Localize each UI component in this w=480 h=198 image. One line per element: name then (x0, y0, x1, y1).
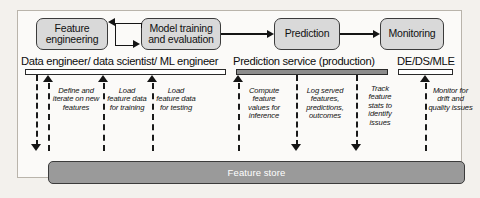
role-bar-data-team (25, 69, 226, 75)
annotation-log-served: Log served features, predictions, outcom… (300, 87, 350, 121)
role-label-text: DE/DS/MLE (397, 55, 455, 67)
annotation-define-iterate: Define and iterate on new features (52, 87, 100, 112)
role-label-data-team: Data engineer/ data scientist/ ML engine… (21, 55, 218, 67)
dashed-arrow-monitor-drift (420, 75, 430, 82)
dashed-line-define-iterate-up (48, 83, 50, 151)
loop-top-line (115, 23, 141, 25)
role-bar-prediction-service (236, 69, 388, 75)
dashed-line-monitor-drift (425, 83, 427, 151)
role-label-de-ds-mle: DE/DS/MLE (397, 55, 455, 67)
role-label-prediction-service: Prediction service (production) (233, 55, 375, 67)
connector-prediction-to-monitoring-arrowhead (373, 30, 380, 38)
dashed-arrow-define-iterate-down (31, 144, 41, 151)
flow-box-label: Model training and evaluation (144, 23, 218, 46)
flow-box-label: Monitoring (388, 28, 435, 40)
feature-store-bar[interactable]: Feature store (48, 161, 465, 184)
diagram-frame: Feature engineering Model training and e… (17, 10, 462, 178)
dashed-arrow-compute-inference (233, 75, 243, 82)
connector-prediction-to-monitoring (340, 33, 373, 35)
dashed-line-load-testing (152, 83, 154, 151)
dashed-arrow-define-iterate-up (43, 75, 53, 82)
role-label-text: Prediction service (production) (233, 55, 375, 67)
dashed-line-track-stats (356, 75, 358, 146)
role-label-text: Data engineer/ data scientist/ ML engine… (21, 55, 218, 67)
flow-box-model-training[interactable]: Model training and evaluation (141, 18, 221, 50)
annotation-track-stats: Track feature stats to identify issues (360, 85, 400, 127)
dashed-line-load-training (103, 83, 105, 151)
connector-training-to-prediction-arrowhead (267, 30, 274, 38)
loop-bottom-riser (115, 23, 117, 46)
annotation-compute-inference: Compute feature values for inference (242, 87, 286, 121)
flow-box-label: Prediction (285, 28, 330, 40)
annotation-monitor-drift: Monitor for drift and quality issues (428, 87, 473, 112)
dashed-arrow-track-stats (351, 144, 361, 151)
loop-bottom-line (115, 45, 134, 47)
dashed-arrow-load-testing (147, 75, 157, 82)
flow-box-label: Feature engineering (39, 23, 105, 46)
dashed-line-define-iterate-down (36, 75, 38, 146)
flow-box-feature-engineering[interactable]: Feature engineering (36, 18, 108, 50)
annotation-load-testing: Load feature data for testing (156, 87, 196, 112)
annotation-load-training: Load feature data for training (107, 87, 147, 112)
connector-training-to-prediction (221, 33, 267, 35)
figure-canvas: Feature engineering Model training and e… (0, 0, 480, 198)
feature-store-label: Feature store (228, 167, 286, 178)
flow-box-prediction[interactable]: Prediction (274, 18, 340, 50)
flow-box-monitoring[interactable]: Monitoring (380, 18, 444, 50)
dashed-line-log-served (296, 75, 298, 146)
dashed-line-compute-inference (238, 83, 240, 151)
loop-bottom-arrowhead (133, 40, 140, 48)
dashed-arrow-log-served (291, 144, 301, 151)
dashed-arrow-load-training (98, 75, 108, 82)
